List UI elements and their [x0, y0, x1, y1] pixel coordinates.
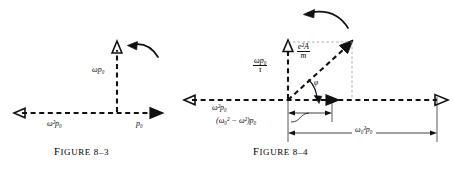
fig84-resultant-denominator: m: [297, 51, 310, 60]
fig83-rotation-arc-icon: [128, 42, 159, 57]
fig83-vertical-axis-label: ωp₀: [92, 66, 104, 74]
fig84-dimension-extension-lines: [288, 97, 437, 142]
fig84-phase-angle-label: φ: [314, 79, 318, 87]
fig83-horizontal-axis: [14, 108, 163, 119]
fig84-horizontal-component-label: (ω₀² − ω²)p₀: [216, 117, 256, 125]
figure-8-3-caption: FIGURE 8–3: [54, 146, 109, 157]
fig83-left-axis-label: ω²p₀: [47, 120, 62, 128]
fig84-vertical-component-label: ωp₀ τ: [253, 57, 267, 75]
fig84-resultant-label: e²A m: [297, 43, 310, 61]
fig84-resultant-numerator: e²A: [297, 43, 310, 51]
fig83-right-axis-label: p₀: [136, 120, 143, 128]
fig84-total-span-label: ω₀²p₀: [352, 126, 376, 134]
fig84-rotation-arc-icon: [304, 10, 349, 29]
fig83-vertical-axis: [112, 41, 122, 112]
figure-8-3: ωp₀ ω²p₀ p₀ FIGURE 8–3 ωp₀ τ e²A m φ ω²p…: [0, 0, 453, 169]
fig84-horizontal-component-arrowhead-icon: [326, 95, 339, 105]
fig84-vertical-component-numerator: ωp₀: [253, 57, 267, 65]
fig83-right-arrowhead-icon: [150, 108, 163, 119]
vector-diagram-canvas: [0, 0, 453, 169]
figure-8-4-caption: FIGURE 8–4: [253, 146, 308, 157]
fig84-horizontal-component-dimension: [288, 110, 332, 115]
fig84-vertical-component-denominator: τ: [253, 65, 267, 74]
fig84-vertical-component: [283, 40, 293, 99]
fig84-left-axis-label: ω²p₀: [212, 104, 227, 112]
